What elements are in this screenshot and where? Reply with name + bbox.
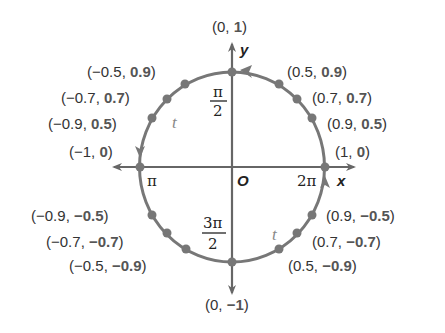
coord-label-q3-a: (−0.9, −0.5) [31, 207, 109, 224]
unit-circle-diagram: y x O π 2 π 2π 3π 2 t t (0, 1) (0.5, 0.9… [0, 0, 445, 333]
coord-label-top: (0, 1) [212, 18, 247, 35]
angle-pi-over-2-numerator: π [213, 83, 223, 101]
coord-label-q4-b: (0.7, −0.7) [312, 233, 381, 250]
coord-label-q1-a: (0.5, 0.9) [287, 63, 347, 80]
coord-label-right: (1, 0) [335, 143, 370, 160]
x-axis-label: x [336, 172, 346, 189]
arc-variable-t-bottom: t [272, 225, 278, 244]
angle-pi-label: π [147, 172, 157, 190]
y-axis-label: y [239, 41, 249, 58]
coord-label-q3-c: (−0.5, −0.9) [69, 257, 147, 274]
coord-label-q4-a: (0.9, −0.5) [326, 207, 395, 224]
angle-2pi-label: 2π [297, 172, 317, 190]
coord-label-q2-c: (−0.9, 0.5) [48, 115, 117, 132]
arc-arrow-right-icon [320, 176, 330, 188]
diagram-canvas: y x O π 2 π 2π 3π 2 t t (0, 1) (0.5, 0.9… [0, 0, 445, 333]
angle-3pi-over-2-denominator: 2 [208, 235, 218, 253]
coord-label-q2-a: (−0.5, 0.9) [87, 63, 156, 80]
coord-label-q1-b: (0.7, 0.7) [312, 89, 372, 106]
coord-label-left: (−1, 0) [69, 143, 113, 160]
angle-3pi-over-2-numerator: 3π [203, 214, 223, 232]
angle-pi-over-2-denominator: 2 [213, 102, 223, 120]
origin-label: O [237, 172, 249, 189]
arc-variable-t-top: t [172, 113, 178, 132]
coord-label-q3-b: (−0.7, −0.7) [46, 233, 124, 250]
coord-label-bottom: (0, −1) [205, 296, 249, 313]
coord-label-q2-b: (−0.7, 0.7) [61, 89, 130, 106]
coord-label-q1-c: (0.9, 0.5) [327, 115, 387, 132]
coord-label-q4-c: (0.5, −0.9) [288, 257, 357, 274]
